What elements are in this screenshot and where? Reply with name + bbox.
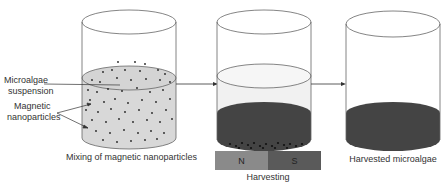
- beaker-harvesting: [217, 10, 311, 151]
- magnet-north-label: N: [215, 150, 268, 172]
- diagram: Microalgae suspension Magnetic nanoparti…: [0, 0, 448, 188]
- label-suspension-line2: suspension: [8, 86, 54, 97]
- label-particles-line2: nanoparticles: [7, 112, 61, 123]
- beaker-mixing: [82, 10, 176, 149]
- caption-harvested: Harvested microalgae: [344, 154, 442, 165]
- label-particles-line1: Magnetic: [14, 101, 51, 112]
- caption-harvesting: Harvesting: [228, 172, 308, 183]
- beaker-harvested: [346, 11, 440, 151]
- caption-mixing: Mixing of magnetic nanoparticles: [66, 152, 196, 163]
- magnet-south-label: S: [268, 150, 321, 172]
- arrow-to-harvesting: [176, 82, 218, 86]
- label-suspension-line1: Microalgae: [4, 75, 48, 86]
- arrow-to-harvested: [311, 82, 346, 86]
